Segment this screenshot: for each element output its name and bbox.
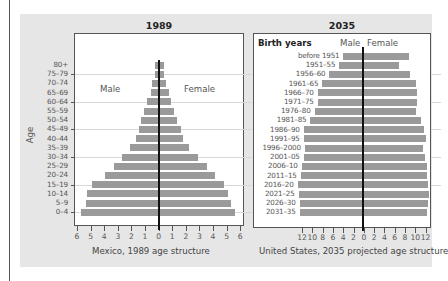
male-bar — [136, 135, 159, 142]
female-bar — [364, 145, 423, 152]
male-bar — [144, 108, 159, 115]
female-bar — [159, 154, 198, 161]
birth-year-label: before 1951 — [281, 51, 339, 60]
male-bar — [304, 126, 364, 133]
male-bar — [92, 181, 159, 188]
birth-year-label: 1956–60 — [267, 69, 325, 78]
right-gridline-stub — [431, 74, 441, 75]
female-bar — [364, 163, 427, 170]
age-group-label: 75–79 — [28, 69, 68, 78]
birth-year-label: 1971–75 — [256, 97, 314, 106]
female-bar — [364, 117, 421, 124]
male-bar — [130, 144, 159, 151]
right-x-tick-label: 12 — [419, 233, 433, 242]
female-bar — [159, 144, 189, 151]
birth-year-label: 2021–25 — [237, 189, 295, 198]
female-bar — [364, 71, 410, 78]
left-x-tick — [213, 226, 214, 231]
birth-year-label: 1981–85 — [248, 115, 306, 124]
birth-year-label: 1991–95 — [242, 134, 300, 143]
male-bar — [339, 62, 364, 69]
female-bar — [364, 154, 425, 161]
left-y-tick — [71, 212, 75, 213]
left-x-tick-label: 4 — [97, 232, 111, 241]
age-group-label: 55–59 — [28, 106, 68, 115]
birth-year-label: 1986–90 — [242, 125, 300, 134]
left-x-tick — [199, 226, 200, 231]
birth-year-label: 2011–15 — [239, 171, 297, 180]
female-bar — [364, 99, 417, 106]
birth-year-label: 1961–65 — [260, 79, 318, 88]
left-x-tick-label: 2 — [179, 232, 193, 241]
left-female-label: Female — [184, 84, 215, 94]
female-bar — [364, 89, 417, 96]
left-y-tick — [71, 74, 75, 75]
age-group-label: 10–14 — [28, 189, 68, 198]
left-x-tick — [186, 226, 187, 231]
male-bar — [300, 209, 364, 216]
female-bar — [159, 117, 177, 124]
female-bar — [159, 126, 181, 133]
birth-year-label: 2016–20 — [236, 180, 294, 189]
left-x-tick-label: 4 — [206, 232, 220, 241]
age-group-label: 80+ — [28, 60, 68, 69]
birth-year-label: 1976–80 — [253, 106, 311, 115]
male-bar — [318, 89, 364, 96]
female-bar — [159, 209, 235, 216]
left-x-tick — [118, 226, 119, 231]
left-chart-title: 1989 — [74, 20, 244, 31]
age-group-label: 65–69 — [28, 88, 68, 97]
male-bar — [302, 163, 364, 170]
left-x-tick — [104, 226, 105, 231]
left-y-tick — [71, 102, 75, 103]
female-bar — [159, 108, 174, 115]
female-bar — [159, 181, 224, 188]
male-bar — [304, 154, 364, 161]
birth-year-label: 1951–55 — [277, 60, 335, 69]
birth-years-header: Birth years — [258, 38, 312, 48]
male-bar — [310, 117, 364, 124]
birth-year-label: 2026–30 — [238, 198, 296, 207]
female-bar — [159, 98, 171, 105]
male-bar — [299, 191, 364, 198]
right-chart-title: 2035 — [253, 20, 431, 31]
age-group-label: 60–64 — [28, 97, 68, 106]
left-x-tick-label: 6 — [233, 232, 247, 241]
left-x-tick — [145, 226, 146, 231]
age-group-label: 15–19 — [28, 180, 68, 189]
male-bar — [86, 200, 159, 207]
left-y-tick — [71, 157, 75, 158]
age-group-label: 35–39 — [28, 143, 68, 152]
male-bar — [81, 209, 159, 216]
left-x-tick — [227, 226, 228, 231]
age-group-label: 5–9 — [28, 198, 68, 207]
male-bar — [343, 53, 364, 60]
age-group-label: 20–24 — [28, 170, 68, 179]
age-group-label: 30–34 — [28, 152, 68, 161]
female-bar — [364, 53, 409, 60]
left-x-tick — [240, 226, 241, 231]
left-x-tick-label: 3 — [111, 232, 125, 241]
right-female-label: Female — [367, 38, 398, 48]
left-x-tick-label: 5 — [220, 232, 234, 241]
left-x-tick-label: 2 — [124, 232, 138, 241]
female-bar — [159, 80, 166, 87]
left-x-tick — [77, 226, 78, 231]
left-gridline — [75, 74, 265, 75]
male-bar — [301, 172, 364, 179]
male-bar — [329, 71, 364, 78]
left-x-tick — [91, 226, 92, 231]
right-chart-caption: United States, 2035 projected age struct… — [259, 246, 448, 256]
male-bar — [114, 163, 159, 170]
female-bar — [159, 200, 231, 207]
left-x-tick — [131, 226, 132, 231]
female-bar — [364, 108, 416, 115]
birth-year-label: 2031–35 — [238, 207, 296, 216]
age-group-label: 50–54 — [28, 115, 68, 124]
birth-year-label: 1996–2000 — [243, 143, 301, 152]
female-bar — [364, 191, 429, 198]
female-bar — [364, 135, 426, 142]
male-bar — [318, 99, 364, 106]
left-y-tick — [71, 129, 75, 130]
female-bar — [159, 89, 169, 96]
